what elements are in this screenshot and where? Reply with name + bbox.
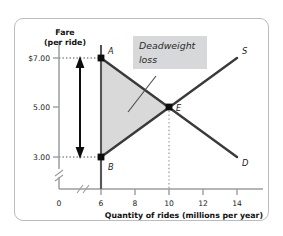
- x-axis-title: Quantity of rides (millions per year): [105, 211, 263, 220]
- point-E-marker: [166, 104, 173, 111]
- figure-frame: $7.00 5.00 3.00 0 6 8 10 12 14 Fare (per…: [14, 18, 269, 221]
- deadweight-loss-label-line2: loss: [139, 54, 157, 65]
- demand-curve-label: D: [242, 158, 249, 168]
- x-tick-label-14: 14: [232, 199, 242, 208]
- economics-supply-demand-chart: $7.00 5.00 3.00 0 6 8 10 12 14 Fare (per…: [15, 19, 270, 222]
- point-B-label: B: [108, 162, 114, 172]
- x-tick-label-0: 0: [57, 199, 62, 208]
- deadweight-loss-label-line1: Deadweight: [139, 40, 196, 51]
- point-E-label: E: [176, 103, 182, 113]
- x-tick-label-10: 10: [164, 199, 174, 208]
- point-A-label: A: [107, 46, 114, 56]
- point-B-marker: [98, 154, 105, 161]
- y-axis-title-line1: Fare: [55, 28, 74, 37]
- y-tick-label-5: 5.00: [33, 103, 50, 112]
- point-A-marker: [98, 55, 105, 62]
- deadweight-loss-triangle: [101, 58, 169, 157]
- x-tick-label-6: 6: [99, 199, 104, 208]
- x-tick-label-12: 12: [198, 199, 208, 208]
- supply-curve-label: S: [242, 46, 248, 56]
- y-tick-label-3: 3.00: [33, 153, 50, 162]
- x-tick-label-8: 8: [133, 199, 138, 208]
- y-tick-label-7: $7.00: [28, 54, 50, 63]
- y-axis-break-mark-1: [55, 170, 63, 176]
- y-axis-title-line2: (per ride): [44, 38, 86, 47]
